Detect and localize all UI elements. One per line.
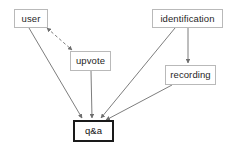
node-label-upvote: upvote bbox=[76, 56, 105, 65]
node-recording[interactable]: recording bbox=[165, 65, 216, 85]
node-user[interactable]: user bbox=[14, 9, 48, 28]
node-label-recording: recording bbox=[170, 70, 211, 80]
node-qa[interactable]: q&a bbox=[73, 120, 114, 142]
node-label-identification: identification bbox=[160, 13, 214, 23]
edge-upvote-to-qa bbox=[91, 71, 92, 118]
edge-recording-to-qa bbox=[106, 85, 172, 120]
node-upvote[interactable]: upvote bbox=[70, 51, 111, 71]
edge-user-to-qa bbox=[29, 28, 82, 118]
node-label-qa: q&a bbox=[85, 126, 102, 136]
node-label-user: user bbox=[22, 13, 41, 23]
edge-user-to-upvote bbox=[47, 28, 72, 50]
edge-identification-to-qa bbox=[101, 28, 175, 118]
diagram-canvas: userupvoteidentificationrecordingq&a bbox=[0, 0, 232, 150]
node-identification[interactable]: identification bbox=[152, 9, 223, 28]
